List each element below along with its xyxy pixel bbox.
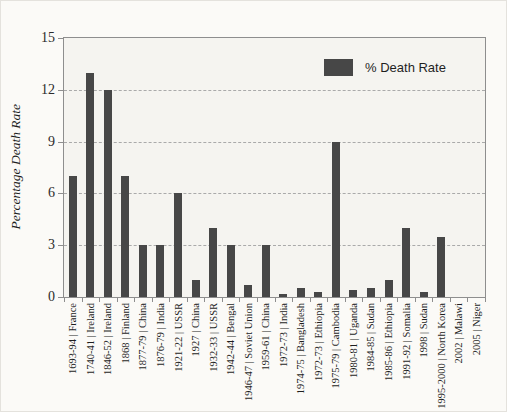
y-tick [58, 297, 63, 298]
x-tick [187, 298, 188, 302]
y-tick-label: 3 [27, 238, 55, 252]
y-tick [58, 142, 63, 143]
x-tick [397, 298, 398, 302]
x-category-label: 1984-85 | Sudan [365, 303, 376, 372]
bar [86, 73, 94, 297]
x-tick [450, 298, 451, 302]
x-category-label: 1846-52 | Ireland [102, 303, 113, 375]
x-category-label: 1927 | China [190, 303, 201, 356]
x-tick [362, 298, 363, 302]
x-tick [204, 298, 205, 302]
y-tick [58, 245, 63, 246]
y-tick-label: 6 [27, 186, 55, 200]
x-tick [117, 298, 118, 302]
bar [349, 290, 357, 297]
x-category-label: 1995-2000 | North Korea [436, 303, 447, 409]
legend: % Death Rate [324, 59, 446, 76]
bar [420, 292, 428, 297]
x-tick [99, 298, 100, 302]
x-category-label: 2005 | Niger [471, 303, 482, 355]
x-tick [152, 298, 153, 302]
bar [174, 193, 182, 297]
y-tick-label: 0 [27, 290, 55, 304]
bar [367, 288, 375, 297]
x-category-label: 1972-73 | Ethiopia [313, 303, 324, 381]
x-category-label: 1985-86 | Ethiopia [383, 303, 394, 381]
x-category-label: 1942-44 | Bengal [225, 303, 236, 375]
x-category-label: 1974-75 | Bangladesh [295, 303, 306, 394]
x-tick [82, 298, 83, 302]
x-category-label: 1975-79 | Cambodia [330, 303, 341, 389]
bar [192, 280, 200, 297]
x-category-label: 1876-79 | India [155, 303, 166, 367]
bar [121, 176, 129, 297]
famine-death-rate-chart: Percentage Death Rate 03691215 1693-94 |… [0, 0, 507, 412]
bar [385, 280, 393, 297]
bar [262, 245, 270, 297]
legend-swatch-icon [324, 59, 353, 76]
x-tick [169, 298, 170, 302]
x-category-label: 1693-94 | France [67, 303, 78, 374]
x-tick [275, 298, 276, 302]
x-category-label: 1946-47 | Soviet Union [243, 303, 254, 401]
x-tick [327, 298, 328, 302]
y-tick [58, 193, 63, 194]
x-tick [64, 298, 65, 302]
bar [314, 292, 322, 297]
y-tick-label: 9 [27, 135, 55, 149]
bar [279, 294, 287, 297]
bar [209, 228, 217, 297]
x-tick [345, 298, 346, 302]
bar [104, 90, 112, 297]
x-tick [257, 298, 258, 302]
x-category-label: 1877-79 | China [137, 303, 148, 370]
x-category-label: 1991-92 | Somalia [401, 303, 412, 380]
bar [156, 245, 164, 297]
x-tick [310, 298, 311, 302]
x-tick [467, 298, 468, 302]
x-tick [222, 298, 223, 302]
plot-area [63, 37, 486, 298]
x-tick [432, 298, 433, 302]
y-axis-title: Percentage Death Rate [8, 104, 24, 229]
x-category-label: 1959-61 | China [260, 303, 271, 370]
x-category-label: 1998 | Sudan [418, 303, 429, 358]
y-tick [58, 38, 63, 39]
y-tick [58, 90, 63, 91]
x-tick [292, 298, 293, 302]
bar [437, 237, 445, 297]
x-category-label: 1980-81 | Uganda [348, 303, 359, 378]
bar [227, 245, 235, 297]
x-category-label: 1932-33 | USSR [208, 303, 219, 372]
x-category-label: 1972-73 | India [278, 303, 289, 367]
legend-label: % Death Rate [365, 60, 446, 75]
x-category-label: 1740-41 | Ireland [85, 303, 96, 375]
x-tick [380, 298, 381, 302]
x-tick [239, 298, 240, 302]
x-category-label: 1868 | Finland [120, 303, 131, 363]
x-tick [134, 298, 135, 302]
bar [139, 245, 147, 297]
gridline-12 [64, 90, 485, 91]
y-tick-label: 15 [27, 31, 55, 45]
bar [69, 176, 77, 297]
x-tick [485, 298, 486, 302]
x-category-label: 1921-22 | USSR [173, 303, 184, 372]
bar [332, 142, 340, 297]
x-tick [415, 298, 416, 302]
gridline-9 [64, 142, 485, 143]
bar [297, 288, 305, 297]
x-category-label: 2002 | Malawi [453, 303, 464, 363]
bar [244, 285, 252, 297]
y-tick-label: 12 [27, 83, 55, 97]
bar [402, 228, 410, 297]
